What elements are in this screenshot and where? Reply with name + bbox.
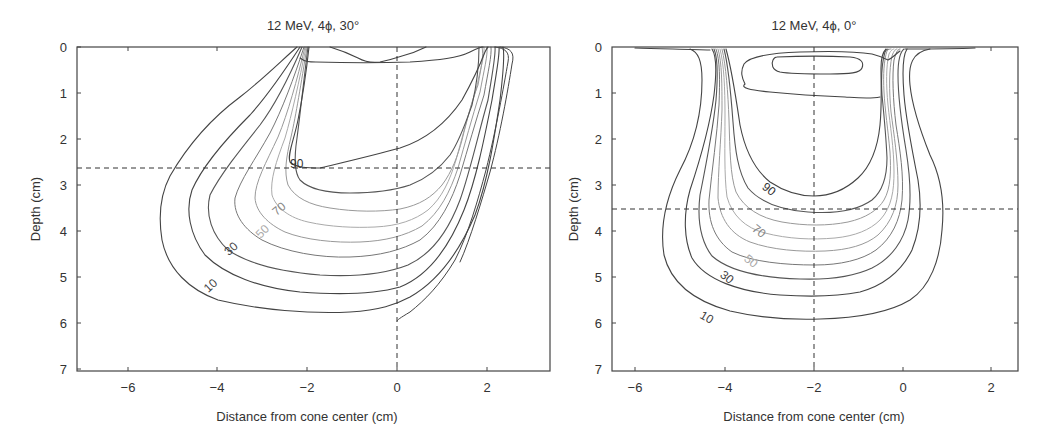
svg-text:2: 2 [483,380,490,395]
left-x-axis-label: Distance from cone center (cm) [216,409,397,424]
svg-text:0: 0 [899,380,906,395]
svg-text:1: 1 [60,86,67,101]
right-isodose-20 [685,49,920,296]
svg-text:1: 1 [595,86,602,101]
right-label-50: 50 [741,252,760,271]
svg-text:3: 3 [595,178,602,193]
left-x-ticks [128,47,487,371]
right-isodose-90 [726,49,886,196]
left-isodose-surface-1 [300,47,483,63]
svg-text:7: 7 [60,362,67,377]
left-isodose-80 [295,47,479,193]
right-isodose-50 [718,49,898,251]
svg-text:2: 2 [60,132,67,147]
right-isodose-70 [722,49,891,225]
right-x-axis-label: Distance from cone center (cm) [723,409,904,424]
right-panel-title: 12 MeV, 4ϕ, 0° [772,18,857,33]
right-contours [635,48,975,319]
left-x-tick-labels: −6 −4 −2 0 2 [121,380,491,395]
svg-text:7: 7 [595,362,602,377]
svg-text:0: 0 [60,40,67,55]
svg-text:2: 2 [595,132,602,147]
right-y-axis-label: Depth (cm) [566,177,581,241]
right-x-tick-labels: −6 −4 −2 0 2 [628,380,995,395]
figure: 12 MeV, 4ϕ, 30° [0,0,1040,446]
right-isodose-40 [709,49,903,265]
right-y-tick-labels: 0 1 2 3 4 5 6 7 [595,40,602,377]
right-buildup-inner [772,56,863,74]
svg-text:−6: −6 [628,380,643,395]
left-isodose-30 [208,47,495,276]
svg-text:5: 5 [60,270,67,285]
svg-text:6: 6 [595,316,602,331]
right-label-10: 10 [698,308,717,327]
right-panel: 12 MeV, 4ϕ, 0° [566,18,1018,424]
left-isodose-50 [255,47,487,242]
svg-text:6: 6 [60,316,67,331]
svg-text:−2: −2 [807,380,822,395]
right-label-30: 30 [717,268,736,287]
right-surface-right [905,48,975,49]
left-label-10: 10 [201,276,221,296]
svg-text:−4: −4 [210,380,225,395]
right-y-ticks [612,93,1018,323]
left-isodose-10 [160,47,504,313]
left-label-90: 90 [290,157,304,171]
right-isodose-60 [720,49,894,239]
right-buildup-outer [742,51,900,98]
left-isodose-surface-2 [330,47,426,62]
left-panel-title: 12 MeV, 4ϕ, 30° [267,18,359,33]
svg-text:0: 0 [393,380,400,395]
svg-text:4: 4 [595,224,602,239]
left-label-50: 50 [253,222,273,242]
svg-text:4: 4 [60,224,67,239]
svg-text:3: 3 [60,178,67,193]
svg-text:0: 0 [595,40,602,55]
svg-text:2: 2 [987,380,994,395]
svg-text:−4: −4 [718,380,733,395]
left-isodose-90 [289,47,488,168]
left-label-70: 70 [269,199,288,219]
svg-text:−6: −6 [121,380,136,395]
left-contour-labels: 90 70 50 30 10 [201,157,304,295]
right-surface-left [635,48,710,50]
right-label-90: 90 [759,180,778,199]
left-y-axis-label: Depth (cm) [28,177,43,241]
left-panel: 12 MeV, 4ϕ, 30° [28,18,550,424]
svg-text:−2: −2 [300,380,315,395]
right-label-70: 70 [749,222,768,241]
left-y-tick-labels: 0 1 2 3 4 5 6 7 [60,40,67,377]
svg-text:5: 5 [595,270,602,285]
left-isodose-70 [286,47,483,211]
